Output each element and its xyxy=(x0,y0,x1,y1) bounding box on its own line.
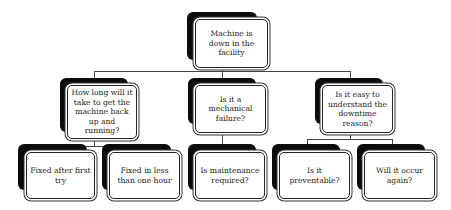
node-label: Will it occur again? xyxy=(368,166,431,185)
level2-node-occur-again: Will it occur again? xyxy=(364,152,435,199)
level1-node-recovery-time: How long will it take to get the machine… xyxy=(67,85,137,139)
node-label: Fixed in less than one hour xyxy=(113,166,176,185)
level1-node-mechanical-failure: Is it a mechanical failure? xyxy=(195,85,266,133)
root-node: Machine is down in the facility xyxy=(195,19,268,68)
node-label: Is it preventable? xyxy=(283,166,346,185)
level2-node-preventable: Is it preventable? xyxy=(279,152,350,199)
level1-node-downtime-reason: Is it easy to understand the downtime re… xyxy=(322,85,393,133)
node-label: Is maintenance required? xyxy=(199,166,261,185)
connector-l1-0-down xyxy=(94,139,95,146)
level2-node-fixed-first-try: Fixed after first try xyxy=(26,152,95,199)
node-label: Fixed after first try xyxy=(30,166,91,185)
node-label: Is it a mechanical failure? xyxy=(199,95,262,124)
node-label: Is it easy to understand the downtime re… xyxy=(326,90,389,128)
level2-node-fixed-one-hour: Fixed in less than one hour xyxy=(109,152,180,199)
level2-node-maintenance-required: Is maintenance required? xyxy=(195,152,265,199)
root-node-label: Machine is down in the facility xyxy=(199,29,264,58)
node-label: How long will it take to get the machine… xyxy=(71,88,133,136)
connector-l2-right-bar xyxy=(307,139,393,140)
